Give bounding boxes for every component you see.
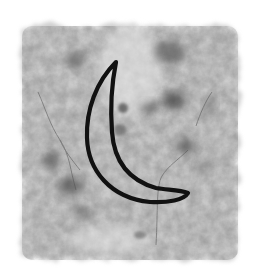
grunge-moon-artwork	[0, 0, 264, 277]
texture-background	[22, 25, 238, 260]
illustration	[0, 0, 264, 277]
